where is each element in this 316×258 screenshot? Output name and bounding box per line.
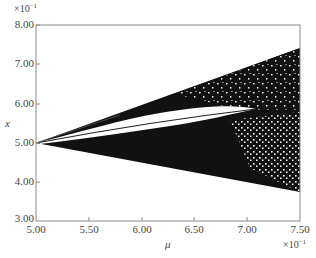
plot-area [0,0,316,258]
x-tick-label: 7.50 [280,223,316,235]
x-tick-label: 7.00 [227,223,267,235]
x-tick-label: 5.50 [69,223,109,235]
y-tick-label: 5.00 [0,136,34,148]
x-axis-label: μ [165,238,171,250]
x-tick-label: 6.00 [122,223,162,235]
y-tick-label: 6.00 [0,97,34,109]
y-axis-label: x [5,117,10,129]
x-axis-ticks [89,217,247,221]
y-tick-label: 7.00 [0,57,34,69]
y-tick-label: 4.00 [0,175,34,187]
x-tick-label: 6.50 [174,223,214,235]
bifurcation-chart: ×10−1 8.00 7.00 6.00 5.00 4.00 3.00 x 5.… [0,0,316,258]
y-axis-multiplier: ×10−1 [14,2,37,14]
y-axis-ticks [36,25,40,182]
data-region [36,48,300,192]
x-tick-label: 5.00 [16,223,56,235]
x-axis-multiplier: ×10−1 [283,238,306,250]
y-tick-label: 8.00 [0,18,34,30]
